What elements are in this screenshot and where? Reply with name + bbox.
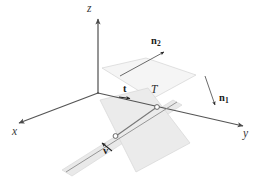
planes-group bbox=[62, 58, 196, 176]
vector-label-n2-subscript: 2 bbox=[157, 39, 161, 48]
vector-label-n2: n2 bbox=[151, 36, 161, 47]
axis-label-z: z bbox=[87, 3, 91, 15]
vector-label-n1: n1 bbox=[219, 93, 229, 104]
vector-label-n1-text: n bbox=[219, 92, 225, 103]
geometry-figure: z x y T t n1 n2 v bbox=[0, 0, 260, 177]
vector-label-n2-text: n bbox=[151, 35, 157, 46]
axis-label-y: y bbox=[243, 128, 248, 140]
vector-label-t: t bbox=[123, 84, 127, 95]
axis-line-x bbox=[19, 93, 98, 123]
axis-label-x: x bbox=[12, 126, 17, 138]
origin-group bbox=[97, 92, 99, 94]
figure-canvas bbox=[0, 0, 260, 177]
vector-label-v-text: v bbox=[103, 145, 108, 156]
vector-label-v: v bbox=[103, 146, 108, 157]
point-T-marker bbox=[155, 105, 160, 110]
vector-label-n1-subscript: 1 bbox=[225, 96, 229, 105]
vector-n1-group bbox=[205, 76, 215, 105]
vector-line-n1 bbox=[205, 76, 215, 105]
point-label-T: T bbox=[151, 84, 157, 96]
vector-label-t-text: t bbox=[123, 83, 127, 94]
origin-marker bbox=[97, 92, 99, 94]
point-lower-marker bbox=[113, 134, 118, 139]
plane-lower bbox=[100, 88, 190, 172]
